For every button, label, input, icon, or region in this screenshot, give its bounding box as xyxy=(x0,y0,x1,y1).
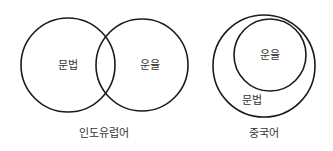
grammar-outer-circle xyxy=(213,15,315,117)
chinese-caption: 중국어 xyxy=(249,127,279,140)
venn-diagrams: 문법 운율 인도유럽어 운율 문법 중국어 xyxy=(0,0,333,151)
grammar-outer-label: 문법 xyxy=(242,94,262,107)
prosody-inner-label: 운율 xyxy=(260,49,280,62)
prosody-label: 운율 xyxy=(140,59,160,72)
chinese-diagram: 운율 문법 중국어 xyxy=(213,15,315,140)
indo-european-caption: 인도유럽어 xyxy=(79,126,129,140)
grammar-label: 문법 xyxy=(58,59,78,72)
indo-european-diagram: 문법 운율 인도유럽어 xyxy=(21,18,188,140)
